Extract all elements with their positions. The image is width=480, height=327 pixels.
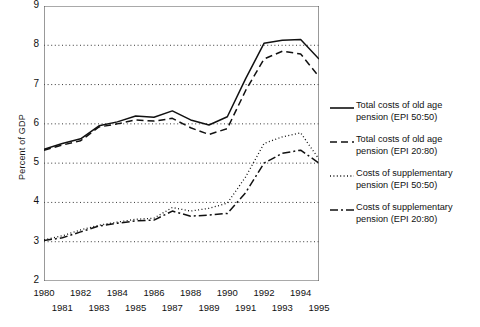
x-tick-label: 1994 xyxy=(290,287,311,298)
x-tick-label: 1988 xyxy=(180,287,201,298)
x-tick-label: 1989 xyxy=(198,302,219,313)
legend-line-sample-dashed xyxy=(330,138,354,146)
chart-figure: Percent of GDP 2345678919801982198419861… xyxy=(0,0,480,327)
y-tick-label: 5 xyxy=(17,156,39,167)
y-tick-label: 3 xyxy=(17,235,39,246)
x-tick-label: 1984 xyxy=(107,287,128,298)
legend-label: Total costs of old age pension (EPI 20:8… xyxy=(356,134,480,157)
series-line-dotted xyxy=(44,133,319,240)
legend-label: Total costs of old age pension (EPI 50:5… xyxy=(356,100,480,123)
legend-label: Costs of supplementary pension (EPI 20:8… xyxy=(356,202,480,225)
chart-legend: Total costs of old age pension (EPI 50:5… xyxy=(330,100,480,236)
plot-area: 2345678919801982198419861988199019921994… xyxy=(44,6,319,281)
y-axis-title: Percent of GDP xyxy=(17,87,27,207)
x-tick-label: 1992 xyxy=(253,287,274,298)
legend-label: Costs of supplementary pension (EPI 50:5… xyxy=(356,168,480,191)
x-tick-label: 1993 xyxy=(272,302,293,313)
x-tick-label: 1980 xyxy=(33,287,54,298)
series-line-dashdot xyxy=(44,150,319,240)
chart-canvas xyxy=(44,6,319,281)
y-tick-label: 7 xyxy=(17,78,39,89)
x-tick-label: 1986 xyxy=(143,287,164,298)
legend-line-sample-dotted xyxy=(330,172,354,180)
legend-item: Costs of supplementary pension (EPI 20:8… xyxy=(330,202,480,225)
x-tick-label: 1995 xyxy=(308,302,329,313)
y-tick-label: 4 xyxy=(17,195,39,206)
y-tick-label: 8 xyxy=(17,38,39,49)
legend-line-sample-dashdot xyxy=(330,206,354,214)
x-tick-label: 1987 xyxy=(162,302,183,313)
x-tick-label: 1985 xyxy=(125,302,146,313)
x-tick-label: 1982 xyxy=(70,287,91,298)
x-tick-label: 1991 xyxy=(235,302,256,313)
legend-item: Total costs of old age pension (EPI 20:8… xyxy=(330,134,480,157)
series-line-solid xyxy=(44,39,319,149)
y-tick-label: 9 xyxy=(17,0,39,10)
legend-item: Costs of supplementary pension (EPI 50:5… xyxy=(330,168,480,191)
x-tick-label: 1990 xyxy=(217,287,238,298)
legend-line-sample-solid xyxy=(330,104,354,112)
y-tick-label: 6 xyxy=(17,117,39,128)
y-tick-label: 2 xyxy=(17,274,39,285)
x-tick-label: 1983 xyxy=(88,302,109,313)
legend-item: Total costs of old age pension (EPI 50:5… xyxy=(330,100,480,123)
x-tick-label: 1981 xyxy=(52,302,73,313)
